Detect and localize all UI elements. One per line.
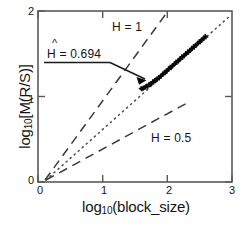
h-equals-one-label: H = 1 [112, 20, 142, 34]
x-axis-title-rest: (block_size) [112, 198, 190, 215]
y-axis-title: log10[M(R/S)] [16, 37, 33, 177]
h-hat-caret-accent: ^ [52, 38, 57, 49]
rs-analysis-log-log-plot: log10[M(R/S)] log10(block_size) 0 1 2 3 … [0, 0, 243, 226]
data-point-cluster [139, 34, 209, 92]
annotation-leader [44, 63, 147, 85]
x-axis-title: log10(block_size) [38, 198, 234, 215]
y-axis-title-main: log [16, 129, 33, 148]
y-tick-label-1: 1 [28, 93, 34, 105]
x-axis-title-main: log [82, 198, 101, 215]
y-tick-label-0: 0 [28, 174, 34, 186]
x-tick-label-3: 3 [229, 184, 235, 196]
h-hat-estimate-annotation: ^H = 0.694 [47, 47, 101, 61]
x-tick-label-2: 2 [166, 184, 172, 196]
x-tick-label-0: 0 [37, 184, 43, 196]
h-hat-estimate-text: H = 0.694 [47, 47, 101, 61]
y-tick-label-2: 2 [28, 5, 34, 17]
x-tick-label-1: 1 [101, 184, 107, 196]
y-axis-title-subscript: 10 [23, 119, 34, 130]
x-axis-title-subscript: 10 [102, 205, 113, 216]
h-equals-one-line [45, 11, 168, 180]
y-axis-title-rest: [M(R/S)] [16, 64, 33, 118]
h-equals-half-label: H = 0.5 [151, 131, 191, 145]
